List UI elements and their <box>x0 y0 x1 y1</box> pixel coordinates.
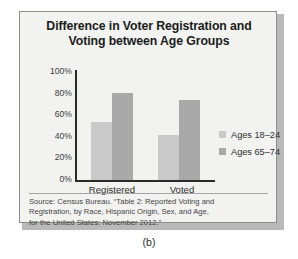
figure-caption: (b) <box>0 236 298 248</box>
bar-voted-ages-65-74 <box>179 100 200 180</box>
legend-swatch-icon-ages-65-74 <box>219 148 226 155</box>
chart-title-line-2: Voting between Age Groups <box>28 34 270 49</box>
source-note-line-1: Source: Census Bureau. “Table 2: Reporte… <box>29 197 273 207</box>
source-note-line-2: Registration, by Race, Hispanic Origin, … <box>29 207 273 217</box>
chart-legend: Ages 18–24 Ages 65–74 <box>219 129 295 163</box>
chart-title-line-1: Difference in Voter Registration and <box>28 19 270 34</box>
legend-item-ages-18-24: Ages 18–24 <box>219 129 295 140</box>
y-tick-label-80: 80% <box>38 88 72 98</box>
y-axis-line <box>75 70 77 180</box>
y-tick-label-100: 100% <box>38 66 72 76</box>
plot-area: Registered Voted <box>75 70 215 182</box>
figure-container: Difference in Voter Registration and Vot… <box>0 0 298 259</box>
y-tick-label-40: 40% <box>38 131 72 141</box>
y-tick-label-60: 60% <box>38 109 72 119</box>
legend-label-ages-18-24: Ages 18–24 <box>231 130 280 140</box>
legend-label-ages-65-74: Ages 65–74 <box>231 147 280 157</box>
x-axis-line <box>75 180 215 182</box>
y-axis-tick-labels: 100% 80% 60% 40% 20% 0% <box>36 70 72 182</box>
legend-item-ages-65-74: Ages 65–74 <box>219 146 295 157</box>
source-divider <box>29 193 268 194</box>
bar-voted-ages-18-24 <box>158 135 179 180</box>
bar-registered-ages-65-74 <box>112 93 133 180</box>
legend-swatch-icon-ages-18-24 <box>219 131 226 138</box>
source-note: Source: Census Bureau. “Table 2: Reporte… <box>29 197 273 228</box>
bar-registered-ages-18-24 <box>91 122 112 180</box>
chart-panel: Difference in Voter Registration and Vot… <box>19 11 277 223</box>
source-note-line-3: for the United States: November 2012.” <box>29 218 273 228</box>
y-tick-label-20: 20% <box>38 152 72 162</box>
y-tick-label-0: 0% <box>38 174 72 184</box>
chart-title: Difference in Voter Registration and Vot… <box>28 19 270 48</box>
